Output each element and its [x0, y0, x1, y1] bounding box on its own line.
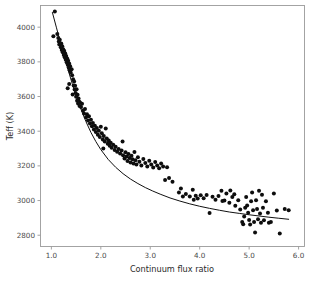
data-point: [253, 230, 257, 234]
data-point: [70, 67, 74, 71]
y-tick-label: 3600: [17, 92, 36, 101]
data-point: [202, 196, 206, 200]
data-point: [181, 194, 185, 198]
data-point: [132, 150, 136, 154]
data-point: [232, 192, 236, 196]
data-point: [260, 193, 264, 197]
data-point: [157, 166, 161, 170]
data-point: [139, 164, 143, 168]
data-point: [163, 178, 167, 182]
data-point: [51, 34, 55, 38]
x-tick-label: 5.0: [243, 251, 255, 260]
data-point: [192, 198, 196, 202]
data-point: [238, 208, 242, 212]
y-tick-label: 2800: [17, 231, 36, 240]
data-point: [236, 198, 240, 202]
data-point: [165, 165, 169, 169]
data-point: [287, 208, 291, 212]
data-point: [87, 114, 91, 118]
x-tick-label: 4.0: [194, 251, 206, 260]
data-point: [67, 82, 71, 86]
data-point: [272, 192, 276, 196]
data-point: [247, 218, 251, 222]
data-point: [220, 199, 224, 203]
x-tick-label: 6.0: [293, 251, 305, 260]
data-point: [255, 207, 259, 211]
data-point: [133, 158, 137, 162]
data-point: [199, 193, 203, 197]
data-point: [145, 165, 149, 169]
x-tick-label: 1.0: [46, 251, 58, 260]
data-point: [147, 159, 151, 163]
x-tick-label: 3.0: [145, 251, 157, 260]
data-point: [261, 206, 265, 210]
data-point: [264, 199, 268, 203]
data-point: [254, 198, 258, 202]
data-point: [161, 165, 165, 169]
data-point: [211, 195, 215, 199]
data-point: [101, 147, 105, 151]
data-point: [224, 192, 228, 196]
y-tick-label: 3800: [17, 57, 36, 66]
data-point: [258, 211, 262, 215]
x-axis-title: Continuum flux ratio: [130, 264, 214, 274]
data-point: [251, 208, 255, 212]
data-point: [278, 232, 282, 236]
data-point: [191, 188, 195, 192]
y-tick-label: 3000: [17, 196, 36, 205]
data-point: [196, 196, 200, 200]
data-point: [228, 189, 232, 193]
data-point: [245, 203, 249, 207]
x-tick-label: 2.0: [95, 251, 107, 260]
data-point: [53, 10, 57, 14]
data-point: [99, 125, 103, 129]
data-point: [208, 211, 212, 215]
data-point: [137, 160, 141, 164]
data-point: [233, 204, 237, 208]
data-point: [141, 157, 145, 161]
data-point: [249, 199, 253, 203]
data-point: [179, 186, 183, 190]
data-point: [267, 221, 271, 225]
data-point: [256, 217, 260, 221]
data-point: [205, 193, 209, 197]
data-point: [171, 180, 175, 184]
data-point: [72, 80, 76, 84]
data-point: [241, 222, 245, 226]
data-point: [143, 161, 147, 165]
data-point: [244, 195, 248, 199]
data-point: [80, 102, 84, 106]
data-point: [70, 73, 74, 77]
data-point: [219, 189, 223, 193]
data-point: [75, 87, 79, 91]
data-point: [66, 86, 70, 90]
data-point: [121, 140, 125, 144]
data-point: [167, 176, 171, 180]
data-point: [242, 215, 246, 219]
data-point: [266, 211, 270, 215]
data-point: [71, 92, 75, 96]
data-point: [188, 194, 192, 198]
data-point: [283, 207, 287, 211]
data-point: [151, 166, 155, 170]
data-point: [120, 149, 124, 153]
scatter-plot-figure: 1.02.03.04.05.06.0 280030003200340036003…: [0, 0, 318, 281]
data-point: [153, 160, 157, 164]
data-point: [129, 154, 133, 158]
plot-canvas: 1.02.03.04.05.06.0 280030003200340036003…: [0, 0, 318, 281]
data-point: [104, 126, 108, 130]
data-point: [177, 191, 181, 195]
y-tick-label: 3400: [17, 127, 36, 136]
data-point: [275, 209, 279, 213]
data-point: [250, 191, 254, 195]
data-point: [227, 201, 231, 205]
y-axis-title: Teff (K): [5, 112, 15, 142]
data-point: [134, 162, 138, 166]
data-point: [216, 194, 220, 198]
data-point: [262, 218, 266, 222]
y-tick-label: 4000: [17, 23, 36, 32]
figure-background: [0, 0, 318, 281]
data-point: [252, 220, 256, 224]
y-tick-label: 3200: [17, 161, 36, 170]
data-point: [257, 189, 261, 193]
